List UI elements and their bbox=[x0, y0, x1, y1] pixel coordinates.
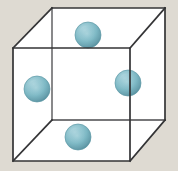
sphere-right bbox=[115, 70, 141, 96]
sphere-top bbox=[75, 22, 101, 48]
sphere-bottom bbox=[65, 124, 91, 150]
lattice-figure bbox=[0, 0, 178, 171]
lattice-diagram bbox=[0, 0, 178, 171]
sphere-left bbox=[24, 76, 50, 102]
